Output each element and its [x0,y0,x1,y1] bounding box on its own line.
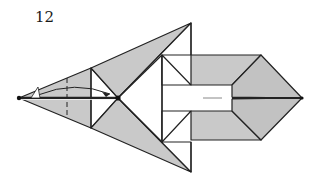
inner-triangle-upper [162,55,191,85]
origami-diagram [0,0,323,186]
center-dot [115,95,120,100]
right-tip-dot [300,96,303,99]
left-tip-dot [17,96,21,100]
inner-triangle-lower [162,111,191,142]
